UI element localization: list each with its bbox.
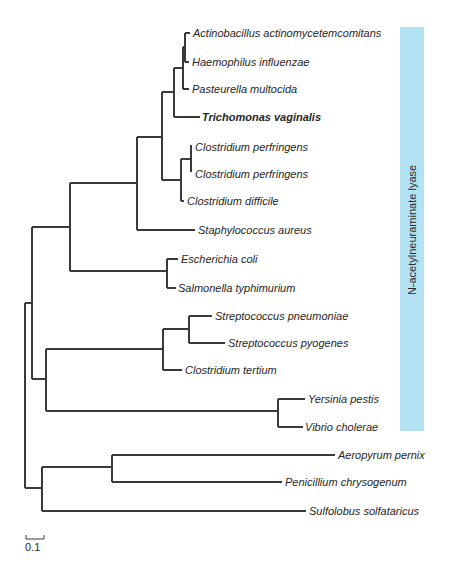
taxon-label: Sulfolobus solfataricus: [309, 505, 420, 517]
phylogenetic-tree: N-acetylneuraminate lyase: [0, 0, 455, 566]
taxon-label: Clostridium difficile: [187, 195, 279, 207]
taxon-label: Escherichia coli: [181, 253, 258, 265]
taxon-label: Streptococcus pneumoniae: [215, 310, 348, 322]
scale-bar-line: [26, 535, 44, 539]
scale-bar-label: 0.1: [25, 541, 40, 553]
taxon-label: Clostridium tertium: [185, 364, 277, 376]
taxon-label: Yersinia pestis: [308, 393, 379, 405]
taxon-label: Actinobacillus actinomycetemcomitans: [192, 27, 382, 39]
scale-bar: 0.1: [25, 535, 44, 553]
tree-branches: [25, 33, 335, 511]
taxon-label: Streptococcus pyogenes: [228, 337, 349, 349]
taxon-label: Vibrio cholerae: [305, 421, 378, 433]
taxon-label: Haemophilus influenzae: [192, 56, 309, 68]
taxon-label-highlighted: Trichomonas vaginalis: [202, 111, 321, 123]
taxon-labels: Actinobacillus actinomycetemcomitans Hae…: [178, 27, 425, 517]
taxon-label: Aeropyrum pernix: [337, 449, 425, 461]
taxon-label: Pasteurella multocida: [192, 83, 297, 95]
taxon-label: Salmonella typhimurium: [178, 282, 295, 294]
taxon-label: Staphylococcus aureus: [198, 224, 312, 236]
taxon-label: Clostridium perfringens: [195, 168, 309, 180]
enzyme-group-label: N-acetylneuraminate lyase: [406, 165, 418, 295]
taxon-label: Penicillium chrysogenum: [285, 476, 407, 488]
taxon-label: Clostridium perfringens: [195, 141, 309, 153]
